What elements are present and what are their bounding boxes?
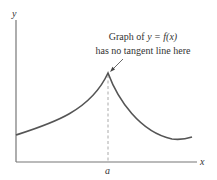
function-curve [16,73,192,139]
annotation-line-2: has no tangent line here [96,45,192,56]
cusp-diagram: y x a Graph of y = f(x) has no tangent l… [0,0,217,180]
annotation-math: y = f(x) [146,31,178,43]
x-tick-label-a: a [105,165,110,176]
annotation-prefix: Graph of [109,31,147,42]
y-axis-label: y [11,8,17,19]
x-axis-label: x [199,156,205,167]
annotation-line-1: Graph of y = f(x) [109,31,178,43]
